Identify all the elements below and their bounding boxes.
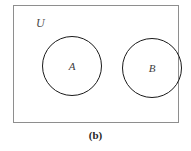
set-b-circle: B (122, 38, 182, 98)
set-b-label: B (123, 63, 181, 74)
universal-set-label: U (36, 17, 45, 29)
universal-set-rectangle: U A B (13, 5, 179, 123)
figure-caption: (b) (0, 130, 191, 141)
set-a-circle: A (42, 36, 102, 96)
set-a-label: A (43, 61, 101, 72)
venn-diagram-figure: U A B (b) (0, 0, 191, 151)
